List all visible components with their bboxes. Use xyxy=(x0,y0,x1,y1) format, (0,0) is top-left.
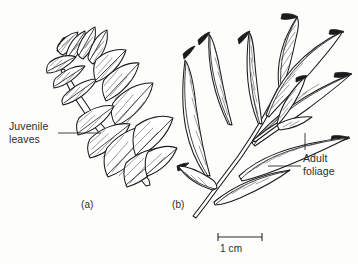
panel-label-b: (b) xyxy=(172,199,185,212)
figure-illustration xyxy=(0,0,358,264)
panel-label-a: (a) xyxy=(81,199,94,212)
adult-leaf-lower-left xyxy=(178,166,217,190)
panel-b-drawing xyxy=(177,14,352,218)
scale-bar xyxy=(218,233,262,241)
botanical-figure: Juvenileleaves Adultfoliage (a) (b) 1 cm xyxy=(0,0,358,264)
juvenile-label-line1: Juvenile xyxy=(9,120,48,132)
adult-label-line2: foliage xyxy=(303,165,335,177)
juvenile-leaves-label: Juvenileleaves xyxy=(9,120,48,145)
juvenile-label-line2: leaves xyxy=(9,133,40,145)
scale-bar-caption: 1 cm xyxy=(220,243,242,256)
adult-leaf-lm-tip xyxy=(183,46,195,59)
adult-leaf-fl-tip xyxy=(198,32,210,45)
adult-label-line1: Adult xyxy=(303,152,327,164)
adult-foliage-label: Adultfoliage xyxy=(303,152,335,177)
panel-a-drawing xyxy=(47,27,177,187)
